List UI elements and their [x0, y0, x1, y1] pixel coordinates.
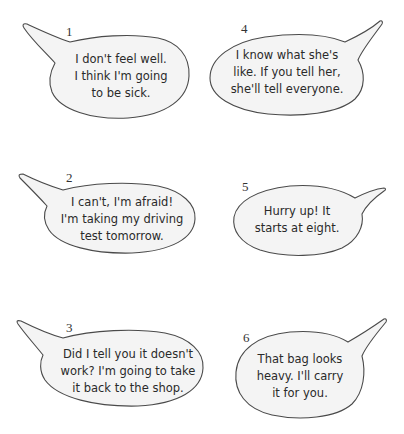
bubble-text-line: Hurry up! It — [255, 203, 340, 220]
bubble-text-line: starts at eight. — [255, 220, 340, 237]
bubble-text: Hurry up! It starts at eight. — [255, 203, 340, 237]
bubble-text-line: I know what she's — [231, 47, 344, 64]
bubble-text-line: heavy. I'll carry — [257, 368, 344, 385]
bubble-text-line: test tomorrow. — [61, 228, 184, 245]
bubble-text: Did I tell you it doesn't work? I'm goin… — [61, 346, 196, 397]
bubble-text: That bag looks heavy. I'll carry it for … — [257, 351, 344, 402]
bubble-number: 6 — [243, 331, 250, 344]
bubble-text: I don't feel well. I think I'm going to … — [74, 51, 167, 102]
bubble-text-line: like. If you tell her, — [231, 64, 344, 81]
bubble-text-line: to be sick. — [74, 85, 167, 102]
bubble-number: 5 — [242, 180, 249, 193]
bubble-text-line: I don't feel well. — [74, 51, 167, 68]
bubble-text-line: I'm taking my driving — [61, 211, 184, 228]
bubble-number: 3 — [66, 321, 73, 334]
bubble-number: 1 — [66, 25, 73, 38]
bubble-text-line: I can't, I'm afraid! — [61, 194, 184, 211]
bubble-text-line: Did I tell you it doesn't — [61, 346, 196, 363]
bubble-text-line: she'll tell everyone. — [231, 81, 344, 98]
bubble-text-line: I think I'm going — [74, 68, 167, 85]
bubble-text-line: That bag looks — [257, 351, 344, 368]
bubble-text: I know what she's like. If you tell her,… — [231, 47, 344, 98]
bubble-text-line: it back to the shop. — [61, 380, 196, 397]
bubble-text-line: work? I'm going to take — [61, 363, 196, 380]
bubble-text-line: it for you. — [257, 385, 344, 402]
bubble-number: 2 — [66, 171, 73, 184]
bubble-text: I can't, I'm afraid! I'm taking my drivi… — [61, 194, 184, 245]
bubble-number: 4 — [241, 22, 248, 35]
